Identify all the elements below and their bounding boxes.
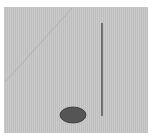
ellipse-shape[interactable]	[60, 107, 86, 123]
shapes-layer	[0, 0, 152, 137]
diagonal-line[interactable]	[5, 8, 72, 82]
